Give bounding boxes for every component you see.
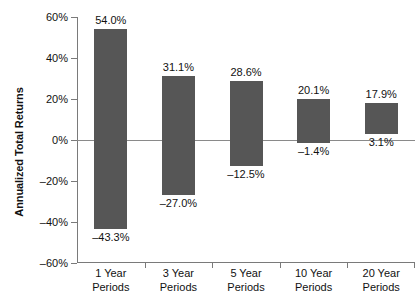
y-tick-mark (71, 181, 77, 182)
category-label-line: 20 Year (363, 267, 400, 281)
x-tick-mark (212, 262, 213, 268)
plot-area: 60%40%20%0%–20%–40%–60% 54.0%–43.3%31.1%… (77, 17, 415, 263)
category-label-line: Periods (160, 281, 197, 295)
category-label-line: Periods (363, 281, 400, 295)
y-tick-mark (71, 58, 77, 59)
x-tick-mark (347, 262, 348, 268)
bar-1-low-label: –43.3% (92, 231, 129, 243)
bar-2-low-label: –27.0% (160, 197, 197, 209)
bar-2-high-label: 31.1% (163, 61, 194, 73)
bar-5-low-label: 3.1% (369, 136, 394, 148)
bar-4-high-label: 20.1% (298, 84, 329, 96)
x-tick-mark (414, 262, 415, 268)
y-tick-label: –20% (40, 175, 68, 187)
y-tick-mark (71, 99, 77, 100)
bar-1 (94, 29, 127, 228)
category-label-5: 20 YearPeriods (363, 267, 400, 294)
x-axis-line (77, 262, 415, 263)
y-tick-label: 60% (46, 11, 68, 23)
bar-1-high-label: 54.0% (95, 14, 126, 26)
y-tick-mark (71, 263, 77, 264)
bar-3 (230, 81, 263, 165)
category-label-1: 1 YearPeriods (92, 267, 129, 294)
bar-2 (162, 76, 195, 195)
y-tick-label: 20% (46, 93, 68, 105)
category-label-line: Periods (295, 281, 332, 295)
y-tick-mark (71, 140, 77, 141)
bar-5-high-label: 17.9% (366, 88, 397, 100)
category-label-line: 1 Year (92, 267, 129, 281)
y-axis-title: Annualized Total Returns (13, 42, 25, 262)
category-label-line: 10 Year (295, 267, 332, 281)
category-label-2: 3 YearPeriods (160, 267, 197, 294)
category-label-4: 10 YearPeriods (295, 267, 332, 294)
category-label-line: 5 Year (227, 267, 264, 281)
y-tick-label: 40% (46, 52, 68, 64)
category-label-line: 3 Year (160, 267, 197, 281)
y-tick-label: –60% (40, 257, 68, 269)
chart-container: Annualized Total Returns 60%40%20%0%–20%… (0, 0, 419, 305)
bar-4 (297, 99, 330, 143)
bar-3-low-label: –12.5% (227, 168, 264, 180)
x-tick-mark (145, 262, 146, 268)
category-label-3: 5 YearPeriods (227, 267, 264, 294)
y-tick-label: 0% (52, 134, 68, 146)
y-tick-label: –40% (40, 216, 68, 228)
bar-5 (365, 103, 398, 133)
bar-4-low-label: –1.4% (298, 145, 329, 157)
y-tick-mark (71, 17, 77, 18)
category-label-line: Periods (92, 281, 129, 295)
bar-3-high-label: 28.6% (230, 66, 261, 78)
category-label-line: Periods (227, 281, 264, 295)
y-tick-mark (71, 222, 77, 223)
x-tick-mark (280, 262, 281, 268)
